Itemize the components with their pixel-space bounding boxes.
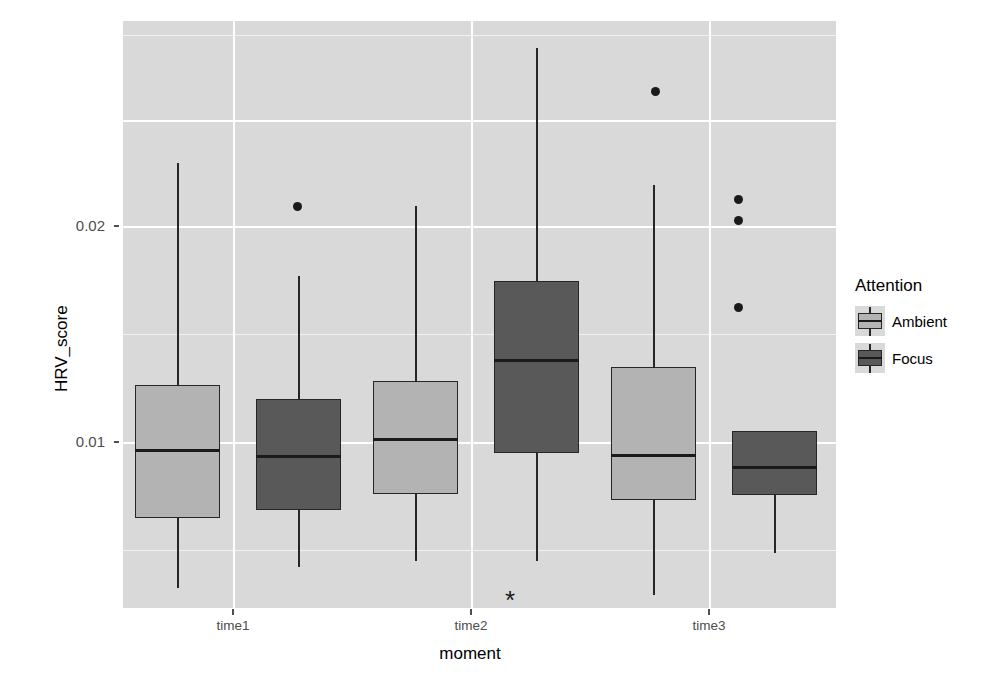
box-focus-time3 (732, 431, 817, 495)
median-line (135, 449, 220, 452)
whisker-lower (536, 453, 538, 561)
whisker-lower (415, 494, 417, 561)
chart-figure: * 0.02 0.01 HRV_score time1 time2 time3 … (0, 0, 999, 697)
whisker-upper (415, 206, 417, 381)
gridline-minor-horizontal (123, 550, 836, 551)
legend: Attention Ambient Focus (855, 276, 947, 380)
box-focus-time2 (494, 281, 579, 453)
significance-annotation: * (505, 587, 515, 613)
legend-title: Attention (855, 276, 947, 296)
gridline-minor-horizontal (123, 334, 836, 335)
y-tick-label-001: 0.01 (0, 433, 105, 450)
legend-item-ambient[interactable]: Ambient (855, 306, 947, 336)
gridline-vertical-time3 (709, 21, 711, 608)
y-axis-title: HRV_score (52, 305, 72, 392)
whisker-lower (298, 510, 300, 567)
outlier-point (651, 87, 660, 96)
outlier-point (734, 195, 743, 204)
median-line (494, 359, 579, 362)
gridline-major-horizontal-0.01 (123, 442, 836, 444)
plot-panel: * (123, 21, 836, 608)
x-tick-mark (232, 609, 234, 615)
median-line (256, 455, 341, 458)
y-tick-mark (114, 441, 119, 443)
whisker-upper (298, 276, 300, 399)
legend-item-focus[interactable]: Focus (855, 343, 947, 373)
whisker-upper (536, 48, 538, 281)
x-axis-title: moment (380, 644, 560, 664)
gridline-minor-horizontal (123, 120, 836, 122)
x-tick-mark (470, 609, 472, 615)
legend-key-focus-icon (855, 343, 885, 373)
y-tick-label-002: 0.02 (0, 217, 105, 234)
x-tick-mark (708, 609, 710, 615)
legend-key-ambient-icon (855, 306, 885, 336)
median-line (732, 466, 817, 469)
median-line (373, 438, 458, 441)
gridline-vertical-time2 (471, 21, 473, 608)
legend-label-ambient: Ambient (892, 313, 947, 330)
outlier-point (293, 202, 302, 211)
gridline-minor-horizontal (123, 35, 836, 36)
whisker-lower (653, 500, 655, 595)
legend-label-focus: Focus (892, 350, 933, 367)
whisker-upper (177, 163, 179, 385)
outlier-point (734, 303, 743, 312)
median-line (611, 454, 696, 457)
outlier-point (734, 216, 743, 225)
x-tick-label-time2: time2 (411, 618, 531, 633)
whisker-lower (177, 518, 179, 588)
x-tick-label-time3: time3 (649, 618, 769, 633)
y-tick-mark (114, 225, 119, 227)
gridline-major-horizontal-0.02 (123, 226, 836, 228)
box-ambient-time3 (611, 367, 696, 500)
whisker-upper (653, 185, 655, 367)
whisker-lower (774, 495, 776, 553)
gridline-vertical-time1 (233, 21, 235, 608)
x-tick-label-time1: time1 (173, 618, 293, 633)
